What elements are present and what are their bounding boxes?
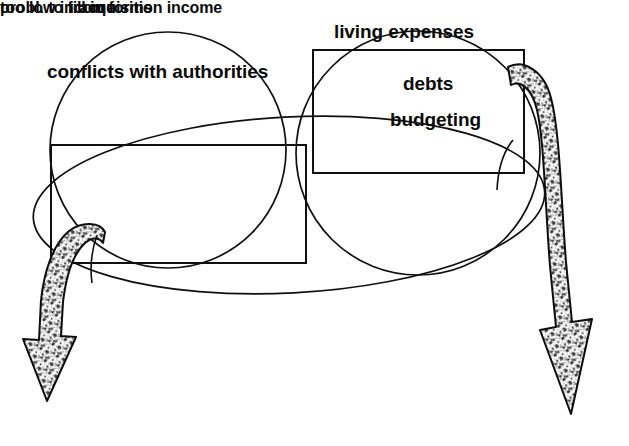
label-conflicts-with-authorities: conflicts with authorities [47,62,268,81]
wide-ellipse-shape [29,104,550,307]
diagram-canvas: conflicts with authorities living expens… [0,0,629,446]
label-living-expenses: living expenses [334,22,474,41]
label-budgeting: budgeting [390,110,481,129]
right-circle-shape [296,31,540,275]
left-arrow-tail-curl [91,235,97,283]
label-probl-to-fill-in-forms: probl. to fill in forms [0,0,152,16]
label-debts: debts [403,74,453,93]
left-rectangle-shape [51,145,306,263]
right-arrow-icon [508,64,592,414]
